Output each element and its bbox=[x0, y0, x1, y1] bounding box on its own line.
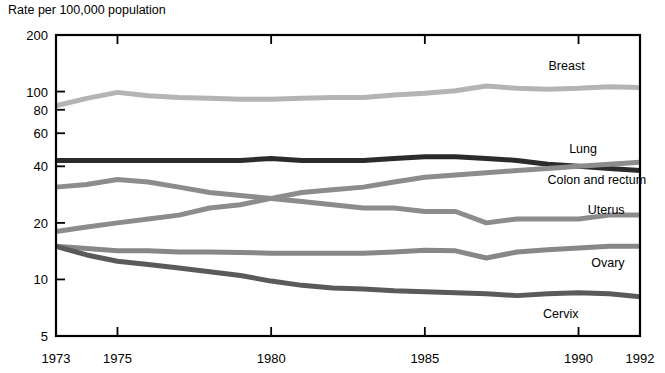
y-tick-label: 60 bbox=[34, 126, 48, 141]
series-label-cervix: Cervix bbox=[543, 307, 579, 321]
cancer-incidence-rate-chart: Rate per 100,000 population 510204060801… bbox=[0, 0, 665, 373]
y-tick-label: 100 bbox=[26, 85, 48, 100]
y-tick-label: 5 bbox=[41, 329, 48, 344]
chart-canvas: Rate per 100,000 population 510204060801… bbox=[0, 0, 665, 373]
series-label-breast: Breast bbox=[549, 59, 586, 73]
y-tick-label: 200 bbox=[26, 28, 48, 43]
series-label-lung: Lung bbox=[569, 142, 597, 156]
series-lines-group bbox=[56, 86, 640, 297]
x-tick-label: 1990 bbox=[564, 351, 593, 366]
series-inline-labels: BreastLungColon and rectumUterusOvaryCer… bbox=[543, 59, 646, 321]
series-line-breast bbox=[56, 86, 640, 106]
x-tick-label: 1992 bbox=[626, 351, 655, 366]
y-tick-label: 10 bbox=[34, 272, 48, 287]
series-line-ovary bbox=[56, 246, 640, 258]
series-label-colon-and-rectum: Colon and rectum bbox=[547, 173, 646, 187]
x-tick-label: 1985 bbox=[410, 351, 439, 366]
series-label-uterus: Uterus bbox=[588, 203, 625, 217]
y-axis-tick-labels: 51020406080100200 bbox=[26, 28, 48, 344]
series-label-ovary: Ovary bbox=[591, 256, 625, 270]
x-tick-label: 1973 bbox=[42, 351, 71, 366]
y-tick-label: 20 bbox=[34, 216, 48, 231]
y-tick-label: 80 bbox=[34, 103, 48, 118]
x-tick-label: 1975 bbox=[103, 351, 132, 366]
y-axis-title: Rate per 100,000 population bbox=[8, 3, 166, 17]
x-tick-label: 1980 bbox=[257, 351, 286, 366]
x-axis-tick-labels: 197319751980198519901992 bbox=[42, 351, 655, 366]
y-tick-label: 40 bbox=[34, 159, 48, 174]
